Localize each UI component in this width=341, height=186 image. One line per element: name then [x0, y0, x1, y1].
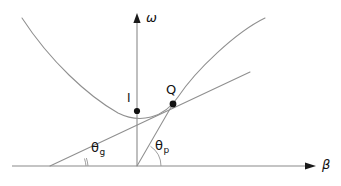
theta-p-subscript: p: [163, 145, 169, 155]
theta-g-symbol: θ: [91, 140, 99, 155]
beta-axis-label: β: [322, 158, 330, 171]
point-Q-dot: [170, 101, 177, 108]
beta-axis: [12, 162, 316, 169]
theta-g-angle-arc-outer: [86, 158, 88, 166]
theta-p-symbol: θ: [155, 138, 163, 153]
theta-g-label: θg: [91, 141, 105, 154]
omega-axis-arrowhead: [133, 13, 140, 23]
point-I-label: I: [127, 92, 131, 104]
point-Q-label: Q: [166, 83, 176, 96]
theta-g-angle-arc: [85, 159, 87, 167]
theta-g-subscript: g: [99, 147, 105, 157]
beta-axis-arrowhead: [305, 162, 316, 169]
omega-axis: [133, 13, 140, 166]
omega-axis-label: ω: [146, 11, 157, 24]
group-velocity-chord: [50, 72, 250, 166]
phase-velocity-ray: [137, 102, 174, 166]
point-I-dot: [134, 108, 140, 114]
theta-p-label: θp: [155, 139, 169, 152]
dispersion-diagram: ω β I Q θg θp: [0, 0, 341, 186]
dispersion-curve: [22, 18, 265, 118]
